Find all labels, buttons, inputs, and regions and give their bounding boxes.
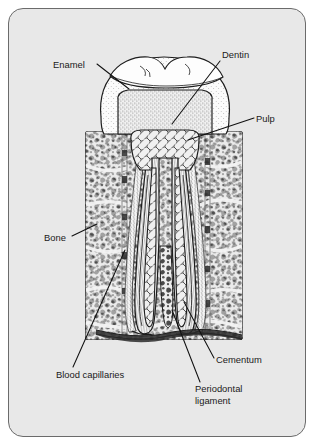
label-pulp: Pulp [256,113,275,124]
label-bone: Bone [44,232,66,243]
dentin-core [118,90,212,134]
label-cementum: Cementum [216,354,262,365]
label-dentin: Dentin [222,49,249,60]
label-enamel: Enamel [53,59,85,70]
label-periodontal-ligament-line2: ligament [195,395,231,406]
label-periodontal-ligament-line1: Periodontal [195,383,242,394]
tooth-cross-section-diagram: Enamel Dentin Pulp Bone Blood capillarie… [0,0,314,445]
label-blood-capillaries: Blood capillaries [56,369,125,380]
